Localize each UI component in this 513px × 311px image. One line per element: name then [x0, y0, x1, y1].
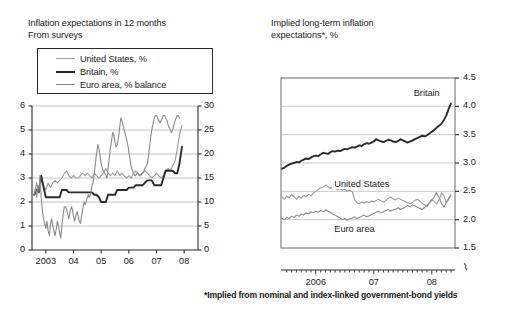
legend-label-britain: Britain, %: [80, 67, 118, 77]
left-chart-y2tick-10: 10: [204, 196, 226, 206]
right-chart-series-label-euro-area: Euro area: [332, 224, 376, 234]
left-chart-ytick-0: 0: [5, 244, 25, 254]
left-chart-y2tick-5: 5: [204, 220, 226, 230]
left-chart-ytick-2: 2: [5, 196, 25, 206]
left-chart-ytick-1: 1: [5, 220, 25, 230]
left-chart-y2tick-0: 0: [204, 244, 226, 254]
right-series-britain: [282, 104, 451, 169]
left-chart-xtick-05: 05: [86, 256, 116, 266]
left-chart-xtick-04: 04: [59, 256, 89, 266]
right-chart-ytick-2.0: 2.0: [463, 214, 485, 224]
left-chart-xtick-07: 07: [142, 256, 172, 266]
right-series-euro-area: [282, 192, 451, 220]
legend-item-euro-area: Euro area, % balance: [56, 78, 166, 91]
right-chart-ytick-2.5: 2.5: [463, 185, 485, 195]
right-chart-xtick-07: 07: [359, 277, 389, 287]
right-chart-series-label-united-states: United States: [332, 179, 391, 189]
left-chart-xtick-08: 08: [169, 256, 199, 266]
left-chart-ytick-6: 6: [5, 100, 25, 110]
left-chart-y2tick-30: 30: [204, 100, 226, 110]
left-chart-y2tick-20: 20: [204, 148, 226, 158]
legend-swatch-euro-area: [56, 84, 75, 85]
left-chart-xtick-06: 06: [114, 256, 144, 266]
legend-label-euro-area: Euro area, % balance: [80, 80, 166, 90]
right-chart-title: Implied long-term inflation expectations…: [271, 18, 374, 41]
right-chart-series-label-britain: Britain: [412, 88, 442, 98]
right-chart-ytick-3.0: 3.0: [463, 157, 485, 167]
left-chart-ytick-5: 5: [5, 124, 25, 134]
left-series-euro-area: [34, 116, 179, 238]
left-chart-ytick-4: 4: [5, 148, 25, 158]
right-chart-ytick-4.5: 4.5: [463, 72, 485, 82]
left-chart-xtick-2003: 2003: [31, 256, 61, 266]
left-chart-y2tick-25: 25: [204, 124, 226, 134]
left-chart-title: Inflation expectations in 12 months From…: [28, 18, 166, 41]
right-chart-xtick-2006: 2006: [301, 277, 331, 287]
right-chart-ytick-4.0: 4.0: [463, 100, 485, 110]
right-chart-ytick-1.5: 1.5: [463, 242, 485, 252]
left-series-britain: [34, 147, 182, 202]
legend-swatch-united-states: [56, 58, 75, 59]
left-chart-y2tick-15: 15: [204, 172, 226, 182]
right-chart-ytick-3.5: 3.5: [463, 129, 485, 139]
footnote: *Implied from nominal and index-linked g…: [204, 290, 457, 300]
legend-swatch-britain: [56, 71, 75, 73]
left-chart-ytick-3: 3: [5, 172, 25, 182]
figure-root: Inflation expectations in 12 months From…: [0, 0, 513, 311]
legend-item-britain: Britain, %: [56, 65, 118, 78]
left-chart-plot: 012345605101520253020030405060708: [0, 98, 250, 273]
legend-item-united-states: United States, %: [56, 52, 147, 65]
right-chart-plot: 1.52.02.53.03.54.04.520060708⌇BritainUni…: [255, 70, 513, 275]
right-chart-xtick-08: 08: [417, 277, 447, 287]
legend-label-united-states: United States, %: [80, 54, 147, 64]
left-chart-legend: United States, % Britain, % Euro area, %…: [37, 48, 213, 94]
